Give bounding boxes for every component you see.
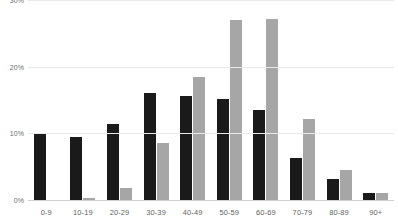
bar-series-2-60-69[interactable]	[266, 19, 278, 200]
bar-group-50-59	[211, 0, 248, 200]
x-tick-label-50-59: 50-59	[211, 203, 248, 222]
bar-series-2-50-59[interactable]	[230, 20, 242, 200]
bar-group-70-79	[284, 0, 321, 200]
bar-series-2-90+[interactable]	[376, 193, 388, 200]
y-tick-label: 10%	[10, 130, 24, 137]
bar-series-2-40-49[interactable]	[193, 77, 205, 200]
bar-series-1-10-19[interactable]	[70, 137, 82, 200]
bar-group-10-19	[65, 0, 102, 200]
bar-series-1-30-39[interactable]	[144, 93, 156, 200]
plot-area	[28, 0, 394, 200]
bars-layer	[28, 0, 394, 200]
bar-group-90+	[357, 0, 394, 200]
gridline-10%	[28, 133, 394, 134]
bar-series-1-80-89[interactable]	[327, 179, 339, 200]
x-tick-label-80-89: 80-89	[321, 203, 358, 222]
bar-group-30-39	[138, 0, 175, 200]
bar-series-2-70-79[interactable]	[303, 119, 315, 200]
x-tick-label-60-69: 60-69	[248, 203, 285, 222]
bar-group-40-49	[174, 0, 211, 200]
x-axis: 0-910-1920-2930-3940-4950-5960-6970-7980…	[28, 203, 394, 222]
bar-series-1-90+[interactable]	[363, 193, 375, 200]
bar-series-2-30-39[interactable]	[157, 143, 169, 200]
bar-chart: 0%10%20%30% 0-910-1920-2930-3940-4950-59…	[0, 0, 398, 222]
bar-series-1-40-49[interactable]	[180, 96, 192, 200]
y-axis: 0%10%20%30%	[0, 0, 28, 205]
y-tick-label: 0%	[14, 197, 24, 204]
gridline-30%	[28, 0, 394, 1]
gridline-0%	[28, 200, 394, 201]
gridline-20%	[28, 67, 394, 68]
bar-group-20-29	[101, 0, 138, 200]
x-tick-label-90+: 90+	[357, 203, 394, 222]
x-tick-label-70-79: 70-79	[284, 203, 321, 222]
bar-series-1-70-79[interactable]	[290, 158, 302, 200]
x-tick-label-20-29: 20-29	[101, 203, 138, 222]
bar-group-80-89	[321, 0, 358, 200]
y-tick-label: 20%	[10, 63, 24, 70]
bar-series-1-60-69[interactable]	[253, 110, 265, 200]
bar-series-2-20-29[interactable]	[120, 188, 132, 200]
x-tick-label-40-49: 40-49	[174, 203, 211, 222]
bar-series-1-0-9[interactable]	[34, 134, 46, 200]
bar-series-1-20-29[interactable]	[107, 124, 119, 200]
bar-series-1-50-59[interactable]	[217, 99, 229, 200]
bar-group-0-9	[28, 0, 65, 200]
bar-series-2-80-89[interactable]	[340, 170, 352, 200]
y-tick-label: 30%	[10, 0, 24, 4]
x-tick-label-10-19: 10-19	[65, 203, 102, 222]
x-tick-label-30-39: 30-39	[138, 203, 175, 222]
bar-group-60-69	[248, 0, 285, 200]
x-tick-label-0-9: 0-9	[28, 203, 65, 222]
